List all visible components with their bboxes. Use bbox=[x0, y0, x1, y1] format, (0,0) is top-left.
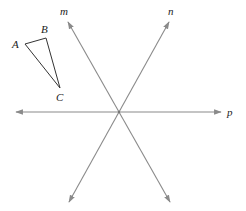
vertex-b-label: B bbox=[41, 23, 48, 35]
line-p-label: p bbox=[226, 106, 233, 118]
line-n-label: n bbox=[168, 5, 174, 17]
vertex-a-label: A bbox=[11, 38, 19, 50]
intersection-point bbox=[118, 111, 120, 113]
geometry-figure: m n p A B C bbox=[0, 0, 246, 211]
line-n: n bbox=[69, 5, 174, 202]
triangle-abc: A B C bbox=[11, 23, 64, 103]
line-m-label: m bbox=[60, 5, 68, 17]
triangle-shape bbox=[25, 38, 60, 88]
vertex-c-label: C bbox=[56, 91, 64, 103]
line-m: m bbox=[60, 5, 170, 202]
line-p: p bbox=[16, 106, 233, 118]
